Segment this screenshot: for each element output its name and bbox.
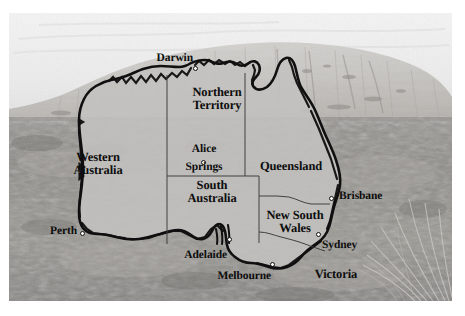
city-label-line1: Perth: [33, 226, 77, 238]
state-label-line1: Western: [51, 151, 145, 164]
state-label-northern-territory: Northern Territory: [171, 86, 263, 111]
city-marker-adelaide: [227, 237, 232, 242]
city-label-line1: Sydney: [322, 240, 376, 252]
city-marker-melbourne: [270, 262, 275, 267]
city-label-melbourne: Melbourne: [199, 271, 271, 283]
city-label-line1: Adelaide: [169, 250, 227, 262]
city-marker-brisbane: [329, 196, 334, 201]
screenshot-root: Western Australia Northern Territory Sou…: [0, 0, 465, 316]
city-label-sydney: Sydney: [322, 240, 376, 252]
state-label-south-australia: South Australia: [165, 179, 259, 204]
outback-photograph: Western Australia Northern Territory Sou…: [9, 13, 452, 301]
city-label-perth: Perth: [33, 226, 77, 238]
state-label-line2: Australia: [165, 192, 259, 205]
state-label-queensland: Queensland: [249, 160, 333, 173]
state-label-line1: Queensland: [249, 160, 333, 173]
city-label-line1: Darwin: [149, 53, 193, 65]
state-label-line1: Northern: [171, 86, 263, 99]
state-label-line2: Wales: [257, 222, 333, 235]
state-label-line1: Victoria: [301, 268, 371, 281]
city-marker-darwin: [193, 66, 198, 71]
city-marker-sydney: [316, 232, 321, 237]
city-label-line1: Melbourne: [199, 271, 271, 283]
city-label-alice-springs: Alice Springs: [169, 144, 239, 173]
state-label-line2: Australia: [51, 164, 145, 177]
city-label-adelaide: Adelaide: [169, 250, 227, 262]
state-label-western-australia: Western Australia: [51, 151, 145, 176]
city-label-line1: Alice: [169, 144, 239, 156]
city-label-brisbane: Brisbane: [339, 191, 399, 203]
state-label-line1: New South: [257, 209, 333, 222]
state-label-victoria: Victoria: [301, 268, 371, 281]
state-label-new-south-wales: New South Wales: [257, 209, 333, 234]
australia-map-overlay: Western Australia Northern Territory Sou…: [9, 13, 452, 301]
city-marker-perth: [80, 231, 85, 236]
city-label-line1: Brisbane: [339, 191, 399, 203]
state-label-line2: Territory: [171, 99, 263, 112]
city-label-line2: Springs: [169, 162, 239, 174]
city-label-darwin: Darwin: [149, 53, 193, 65]
state-label-line1: South: [165, 179, 259, 192]
